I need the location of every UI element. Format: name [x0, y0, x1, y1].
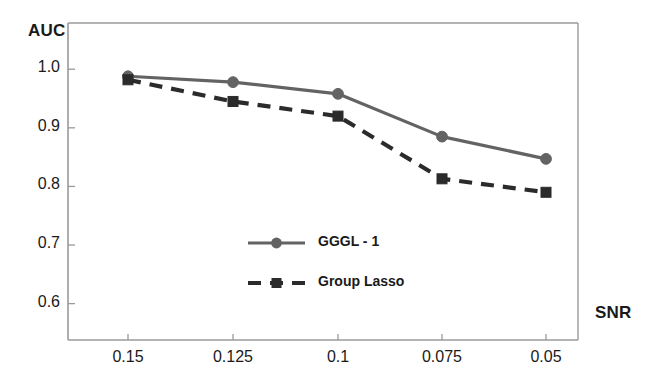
y-tick-label: 1.0: [12, 58, 60, 76]
plot-area: [0, 0, 668, 386]
x-tick-label: 0.125: [193, 348, 273, 366]
data-point-marker: [228, 96, 238, 106]
legend-label-group-lasso: Group Lasso: [318, 273, 404, 289]
data-point-marker: [437, 174, 447, 184]
data-point-marker: [541, 187, 551, 197]
chart-figure: AUC SNR 1.00.90.80.70.6 0.150.1250.10.07…: [0, 0, 668, 386]
data-point-marker: [228, 77, 239, 88]
data-point-marker: [333, 111, 343, 121]
axis-frame: [68, 23, 578, 340]
x-tick-label: 0.075: [402, 348, 482, 366]
legend-glyphs: [248, 238, 305, 288]
y-tick-label: 0.9: [12, 117, 60, 135]
legend-marker-0: [271, 238, 282, 249]
y-axis-ticks: [68, 69, 75, 303]
x-tick-label: 0.05: [506, 348, 586, 366]
y-tick-label: 0.6: [12, 293, 60, 311]
x-tick-label: 0.1: [298, 348, 378, 366]
x-axis-ticks: [128, 334, 546, 340]
legend-label-ggg-l-1: GGGL - 1: [318, 233, 379, 249]
data-point-marker: [333, 88, 344, 99]
data-point-marker: [123, 75, 133, 85]
x-tick-label: 0.15: [88, 348, 168, 366]
y-tick-label: 0.7: [12, 234, 60, 252]
y-tick-label: 0.8: [12, 175, 60, 193]
legend-marker-1: [272, 278, 282, 288]
data-point-marker: [437, 131, 448, 142]
data-point-marker: [541, 153, 552, 164]
data-series-group: [123, 71, 552, 197]
